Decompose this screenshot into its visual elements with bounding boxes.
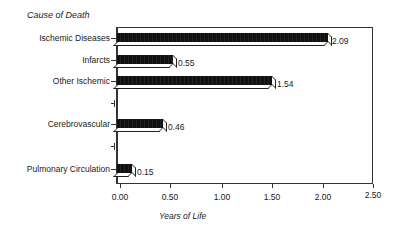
category-label-ischemic-diseases: Ischemic Diseases: [6, 33, 110, 43]
value-label: 2.09: [332, 36, 349, 46]
y-tick: [111, 124, 116, 125]
x-tick: [222, 184, 223, 188]
axis-break-mark: [111, 103, 115, 104]
y-tick: [111, 81, 116, 82]
y-axis-title: Cause of Death: [27, 10, 90, 20]
axis-break-mark: [111, 146, 115, 147]
x-tick-label: 1.00: [207, 192, 237, 202]
category-label-cerebrovascular: Cerebrovascular: [6, 119, 110, 129]
x-tick-label: 0.50: [155, 192, 185, 202]
x-tick: [323, 184, 324, 188]
x-tick-label: 0.00: [105, 192, 135, 202]
x-tick-label: 2.00: [308, 192, 338, 202]
x-axis-title: Years of Life: [159, 211, 206, 221]
x-tick-label: 1.50: [257, 192, 287, 202]
x-tick-label: 2.50: [358, 190, 388, 200]
category-label-infarcts: Infarcts: [6, 55, 110, 65]
plot-frame: [116, 27, 373, 184]
y-tick: [111, 60, 116, 61]
category-label-other-ischemic: Other Ischemic: [6, 76, 110, 86]
x-tick: [272, 184, 273, 188]
y-tick: [111, 38, 116, 39]
value-label: 0.15: [137, 167, 154, 177]
y-axis-line: [116, 27, 118, 184]
value-label: 1.54: [277, 79, 294, 89]
x-tick: [120, 184, 121, 188]
y-tick: [111, 169, 116, 170]
value-label: 0.46: [168, 122, 185, 132]
value-label: 0.55: [178, 58, 195, 68]
category-label-pulmonary-circulation: Pulmonary Circulation: [6, 164, 110, 174]
x-tick: [373, 184, 374, 188]
x-tick: [170, 184, 171, 188]
